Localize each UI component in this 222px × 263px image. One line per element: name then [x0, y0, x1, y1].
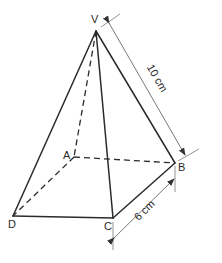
edge-VA: [74, 31, 96, 157]
vertex-label-B: B: [178, 161, 185, 173]
edge-DC: [13, 216, 113, 218]
vertex-label-C: C: [104, 220, 112, 232]
dimension-label-CB: 6 cm: [131, 198, 156, 223]
dimension-line-VB: [109, 23, 185, 155]
dimension-label-VB: 10 cm: [145, 62, 170, 94]
pyramid-diagram: 10 cm 6 cm V A B C D: [0, 0, 222, 263]
edge-VC: [96, 31, 113, 218]
edge-VB: [96, 31, 175, 163]
edge-AB: [74, 157, 175, 163]
edge-VD: [13, 31, 96, 216]
edge-AD: [13, 157, 74, 216]
vertex-label-V: V: [91, 13, 99, 25]
vertex-label-A: A: [63, 149, 71, 161]
pyramid-svg: 10 cm 6 cm V A B C D: [0, 0, 222, 263]
vertex-label-D: D: [8, 218, 16, 230]
extension-line-B-upper: [178, 149, 199, 161]
